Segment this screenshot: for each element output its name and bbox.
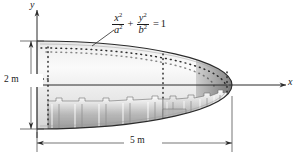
- ellipse-equation: x2 a2 + y2 b2 = 1: [112, 13, 166, 35]
- equation-plus-operator: +: [127, 19, 135, 30]
- height-dimension-label: 2 m: [4, 74, 19, 84]
- rib-panel-forward: [48, 96, 163, 129]
- nose-upper-shade: [196, 45, 240, 86]
- equation-denominator-b: b2: [136, 25, 149, 36]
- y-axis-label: y: [30, 0, 34, 10]
- rib-panel-group-forward: [48, 96, 163, 129]
- ellipse-nose-cone-figure: x2 a2 + y2 b2 = 1 y x 2 m 5 m: [0, 0, 302, 163]
- equation-fraction-y: y2 b2: [136, 13, 149, 35]
- length-dimension-label: 5 m: [127, 135, 148, 145]
- equation-fraction-x: x2 a2: [112, 13, 125, 35]
- equation-equals-sign: =: [151, 19, 159, 30]
- x-axis-label: x: [288, 76, 292, 87]
- equation-denominator-a: a2: [112, 25, 125, 36]
- equation-result: 1: [161, 19, 166, 30]
- height-label-backing: [21, 74, 43, 87]
